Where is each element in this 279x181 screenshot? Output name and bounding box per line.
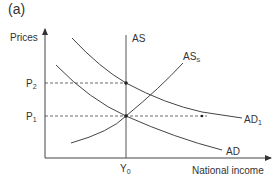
p1-label: P1 [26,111,37,123]
ad1-intersection-point [201,115,204,118]
diagram-canvas: (a) Prices National income P2 P1 Y0 AS A… [0,0,279,181]
as-label: AS [132,33,146,44]
x-axis-label: National income [192,165,264,176]
y0-label: Y0 [120,163,131,175]
ad-label: AD [226,146,240,157]
p2-label: P2 [26,78,37,90]
ad1-label: AD1 [244,114,262,126]
equilibrium-point-p1 [124,114,128,118]
ass-label: ASS [183,51,200,63]
ass-curve [71,63,183,143]
ad1-curve [72,38,242,118]
equilibrium-point-p2 [124,81,128,85]
ad-curve [56,65,222,150]
panel-label: (a) [8,1,25,17]
y-axis-label: Prices [10,32,38,43]
